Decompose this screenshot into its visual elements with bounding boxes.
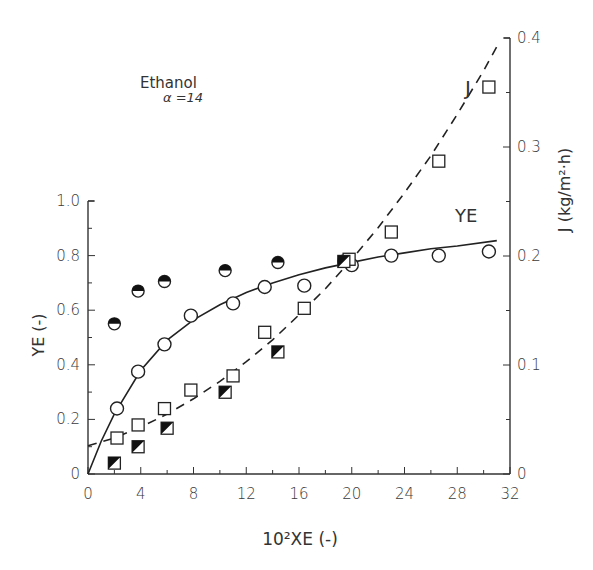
open-circle-marker (227, 297, 240, 310)
open-square-marker (185, 384, 197, 396)
open-circle-marker (482, 245, 495, 258)
open-circle-marker (258, 280, 271, 293)
open-square-marker (259, 326, 271, 338)
y-tick-label: 0 (70, 465, 80, 483)
chart-subtitle: α =14 (163, 90, 203, 105)
open-square-marker (158, 403, 170, 415)
x-tick-label: 28 (448, 485, 467, 503)
j-curve-label: J (463, 76, 471, 100)
ye-fit-curve (88, 241, 497, 474)
x-tick-label: 8 (189, 485, 199, 503)
x-tick-label: 16 (289, 485, 308, 503)
x-axis-label: 10²XE (-) (262, 529, 338, 549)
open-square-marker (227, 370, 239, 382)
open-circle-marker (184, 309, 197, 322)
y2-tick-label: 0 (517, 465, 527, 483)
data-points (108, 81, 495, 469)
x-tick-label: 32 (500, 485, 519, 503)
y2-tick-label: 0.4 (517, 29, 541, 47)
open-circle-marker (111, 402, 124, 415)
x-tick-label: 12 (237, 485, 256, 503)
x-tick-label: 0 (83, 485, 93, 503)
open-square-marker (483, 81, 495, 93)
chart-canvas: 04812162024283200.20.40.60.81.000.10.20.… (0, 0, 593, 570)
x-tick-label: 24 (395, 485, 414, 503)
x-tick-label: 20 (342, 485, 361, 503)
open-circle-marker (132, 365, 145, 378)
open-circle-marker (298, 279, 311, 292)
open-circle-marker (432, 249, 445, 262)
open-circle-marker (158, 338, 171, 351)
open-square-marker (111, 432, 123, 444)
open-square-marker (385, 226, 397, 238)
ye-curve-label: YE (454, 205, 477, 226)
axes: 04812162024283200.20.40.60.81.000.10.20.… (56, 29, 541, 503)
y2-tick-label: 0.3 (517, 138, 541, 156)
y-tick-label: 0.8 (56, 247, 80, 265)
y2-tick-label: 0.1 (517, 356, 541, 374)
y-tick-label: 0.4 (56, 356, 80, 374)
y-tick-label: 1.0 (56, 192, 80, 210)
open-square-marker (433, 155, 445, 167)
y-tick-label: 0.6 (56, 301, 80, 319)
y2-tick-label: 0.2 (517, 247, 541, 265)
j-fit-curve (88, 47, 497, 446)
y2-axis-label: J (kg/m²·h) (555, 148, 574, 233)
x-tick-label: 4 (136, 485, 146, 503)
y-axis-label: YE (-) (29, 313, 48, 357)
open-square-marker (132, 419, 144, 431)
open-square-marker (298, 302, 310, 314)
open-circle-marker (385, 249, 398, 262)
y-tick-label: 0.2 (56, 410, 80, 428)
